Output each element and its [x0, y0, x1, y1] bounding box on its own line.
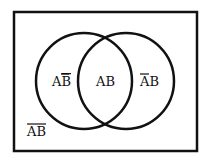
region-not-a-b-label: AB: [139, 74, 159, 89]
venn-diagram: AB AB AB AB: [0, 0, 209, 162]
region-a-and-b-label: AB: [95, 74, 115, 89]
set-b-circle: [78, 33, 174, 129]
set-a-circle: [36, 33, 132, 129]
region-complement-label: AB: [26, 124, 46, 139]
region-a-not-b-label: AB: [51, 74, 71, 89]
